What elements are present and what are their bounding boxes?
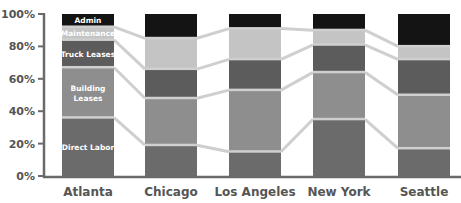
- connector-line: [365, 72, 398, 95]
- segment-divider: [145, 37, 197, 40]
- segment-divider: [62, 38, 114, 41]
- bar-segment-maintenance: [398, 46, 450, 59]
- connector-line: [281, 45, 313, 60]
- bar-segment-direct-labor: [313, 119, 365, 176]
- x-axis-labels: AtlantaChicagoLos AngelesNew YorkSeattle: [63, 185, 448, 199]
- segment-divider: [62, 66, 114, 69]
- category-label: New York: [307, 185, 371, 199]
- y-tick-label: 60%: [9, 73, 35, 86]
- bar-segment-admin: [398, 14, 450, 46]
- segment-divider: [313, 71, 365, 74]
- connector-line: [365, 45, 398, 60]
- segment-divider: [62, 25, 114, 28]
- bar-segment-direct-labor: [145, 145, 197, 176]
- segment-divider: [229, 58, 281, 61]
- y-tick-label: 20%: [9, 138, 35, 151]
- segment-divider: [229, 27, 281, 30]
- segment-divider: [62, 116, 114, 119]
- y-tick-label: 100%: [1, 8, 35, 21]
- connector-line: [114, 27, 145, 38]
- bar-new-york: [313, 14, 365, 176]
- connector-line: [197, 145, 229, 151]
- bar-seattle: [398, 14, 450, 176]
- segment-divider: [313, 29, 365, 32]
- segment-divider: [313, 118, 365, 121]
- segment-label: Truck Leases: [61, 50, 116, 59]
- y-tick-label: 80%: [9, 40, 35, 53]
- connector-line: [365, 119, 398, 148]
- bar-segment-maintenance: [229, 29, 281, 60]
- bar-segment-truck-leases: [398, 59, 450, 95]
- bar-segment-building-leases: [313, 72, 365, 119]
- connector-line: [197, 29, 229, 39]
- segment-divider: [145, 144, 197, 147]
- connector-line: [197, 59, 229, 69]
- bar-segment-building-leases: [229, 90, 281, 152]
- connector-line: [365, 30, 398, 46]
- bar-segment-direct-labor: [398, 148, 450, 176]
- category-label: Los Angeles: [214, 185, 295, 199]
- connector-line: [281, 29, 313, 31]
- segment-divider: [398, 45, 450, 48]
- bar-segment-admin: [229, 14, 281, 29]
- segment-label: Leases: [74, 94, 103, 103]
- bar-segment-building-leases: [145, 98, 197, 145]
- segment-divider: [313, 43, 365, 46]
- segment-divider: [398, 147, 450, 150]
- connector-line: [114, 40, 145, 69]
- connector-line: [197, 90, 229, 98]
- category-label: Chicago: [144, 185, 198, 199]
- bar-segment-maintenance: [313, 30, 365, 45]
- segment-label: Building: [71, 84, 106, 93]
- bar-segment-truck-leases: [229, 59, 281, 90]
- stacked-bar-chart: Direct LaborBuildingLeasesTruck LeasesMa…: [0, 0, 461, 203]
- bar-chicago: [145, 14, 197, 176]
- connector-line: [281, 72, 313, 90]
- category-label: Seattle: [400, 185, 449, 199]
- segment-divider: [398, 94, 450, 97]
- bar-segment-building-leases: [398, 95, 450, 148]
- connector-line: [114, 118, 145, 146]
- segment-label: Direct Labor: [62, 143, 115, 152]
- bar-segment-truck-leases: [145, 69, 197, 98]
- category-label: Atlanta: [63, 185, 113, 199]
- bar-segment-admin: [145, 14, 197, 38]
- bar-segment-truck-leases: [313, 45, 365, 73]
- segment-label: Maintenance: [61, 29, 115, 38]
- bar-segment-maintenance: [145, 38, 197, 69]
- segment-divider: [145, 68, 197, 71]
- segment-divider: [229, 89, 281, 92]
- y-tick-label: 0%: [16, 170, 35, 183]
- bar-segment-direct-labor: [229, 152, 281, 176]
- segment-divider: [145, 97, 197, 100]
- segment-label: Admin: [75, 16, 102, 25]
- connector-line: [281, 119, 313, 151]
- bars: Direct LaborBuildingLeasesTruck LeasesMa…: [61, 14, 450, 176]
- bar-atlanta: Direct LaborBuildingLeasesTruck LeasesMa…: [61, 14, 116, 176]
- bar-segment-admin: [313, 14, 365, 30]
- y-tick-label: 40%: [9, 105, 35, 118]
- bar-los-angeles: [229, 14, 281, 176]
- connector-line: [114, 67, 145, 98]
- segment-divider: [229, 150, 281, 153]
- segment-divider: [398, 58, 450, 61]
